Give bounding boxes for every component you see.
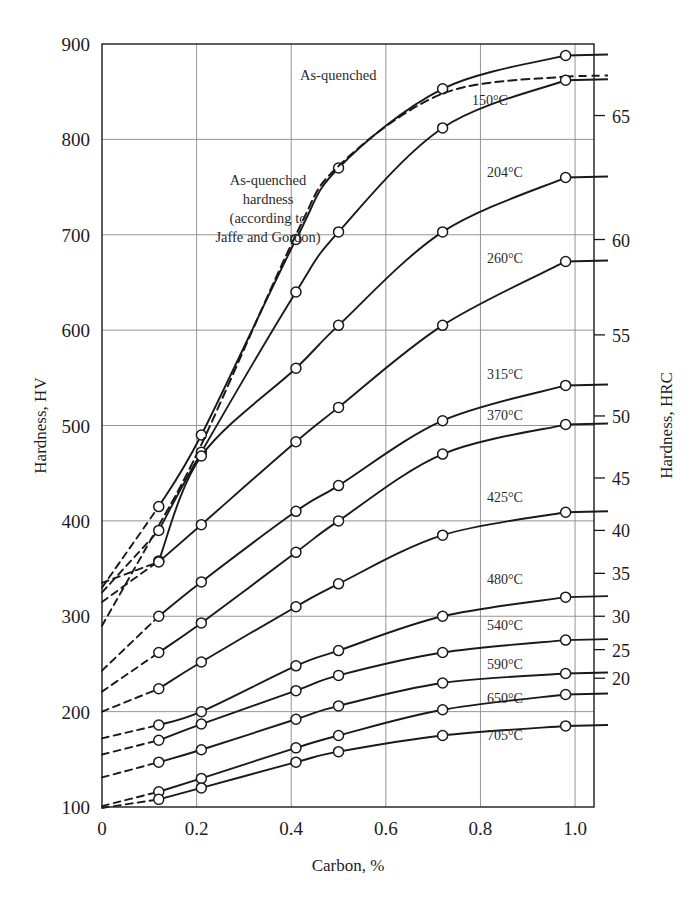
curve-tail (566, 639, 608, 640)
data-point-marker (561, 721, 571, 731)
curve-extrapolation-590-c (102, 762, 159, 777)
curve-tail (566, 54, 608, 55)
hardness-vs-carbon-chart: 10020030040050060070080090000.20.40.60.8… (0, 0, 692, 897)
y-axis-tick-label: 600 (62, 320, 91, 341)
data-point-marker (291, 661, 301, 671)
x-axis-title: Carbon, % (312, 856, 385, 875)
hrc-tick-label: 45 (612, 469, 630, 489)
data-point-marker (334, 579, 344, 589)
curve-tail (566, 596, 608, 597)
hrc-tick-label: 20 (612, 669, 630, 689)
curve-150-c (159, 80, 566, 530)
data-point-marker (291, 506, 301, 516)
curve-extrapolation-315-c (102, 616, 159, 670)
data-point-marker (196, 451, 206, 461)
hrc-tick-label: 50 (612, 407, 630, 427)
curve-tail (566, 672, 608, 673)
data-point-marker (291, 743, 301, 753)
data-point-marker (438, 123, 448, 133)
x-axis-tick-label: 0 (97, 818, 107, 839)
data-point-marker (334, 730, 344, 740)
hrc-tick-label: 30 (612, 607, 630, 627)
data-point-marker (291, 287, 301, 297)
data-point-marker (154, 502, 164, 512)
data-point-marker (561, 420, 571, 430)
curve-tail (566, 75, 608, 76)
data-point-marker (196, 657, 206, 667)
data-point-marker (438, 730, 448, 740)
curve-label-204c: 204°C (487, 165, 523, 180)
data-point-marker (561, 507, 571, 517)
data-point-marker (291, 714, 301, 724)
data-point-marker (334, 402, 344, 412)
data-point-marker (154, 735, 164, 745)
data-point-marker (154, 794, 164, 804)
curve-tail (566, 384, 608, 385)
data-point-marker (438, 678, 448, 688)
data-point-marker (334, 747, 344, 757)
hrc-tick-label: 35 (612, 564, 630, 584)
data-point-marker (561, 592, 571, 602)
data-point-marker (438, 320, 448, 330)
data-point-marker (561, 635, 571, 645)
hrc-tick-label: 55 (612, 326, 630, 346)
hrc-tick-label: 65 (612, 107, 630, 127)
data-point-marker (291, 602, 301, 612)
y-axis-tick-label: 400 (62, 511, 91, 532)
curve-label-540c: 540°C (487, 618, 523, 633)
y-axis-tick-label: 300 (62, 606, 91, 627)
curve-label-480c: 480°C (487, 572, 523, 587)
y-axis-tick-label: 100 (62, 797, 91, 818)
data-point-marker (154, 557, 164, 567)
data-point-marker (334, 163, 344, 173)
hrc-tick-label: 60 (612, 231, 630, 251)
curve-label-260c: 260°C (487, 251, 523, 266)
data-point-marker (334, 670, 344, 680)
curve-tail (566, 725, 608, 726)
curve-label-590c: 590°C (487, 657, 523, 672)
y-axis-title-right: Hardness, HRC (657, 372, 676, 479)
curves-group (102, 50, 608, 808)
curve-extrapolation-204-c (102, 561, 159, 602)
data-point-marker (154, 611, 164, 621)
data-point-marker (561, 256, 571, 266)
data-point-marker (438, 449, 448, 459)
curve-label-650c: 650°C (487, 691, 523, 706)
annotation-jaffe-gordon-line: (according to (230, 210, 307, 227)
hrc-tick-label: 25 (612, 641, 630, 661)
x-axis-tick-label: 0.8 (469, 818, 493, 839)
data-point-marker (334, 227, 344, 237)
data-point-marker (561, 173, 571, 183)
curve-extrapolation-370-c (102, 652, 159, 691)
curve-label-370c: 370°C (487, 408, 523, 423)
data-point-marker (291, 547, 301, 557)
data-point-marker (196, 707, 206, 717)
data-point-marker (334, 481, 344, 491)
x-axis-tick-label: 1.0 (563, 818, 587, 839)
y-axis-tick-label: 900 (62, 34, 91, 55)
data-point-marker (561, 668, 571, 678)
x-axis-tick-label: 0.6 (374, 818, 398, 839)
y-axis-tick-label: 500 (62, 416, 91, 437)
data-point-marker (154, 647, 164, 657)
data-point-marker (561, 50, 571, 60)
y-axis-title-left: Hardness, HV (31, 377, 50, 474)
data-point-marker (196, 719, 206, 729)
data-point-marker (334, 646, 344, 656)
data-point-marker (291, 363, 301, 373)
data-point-marker (438, 227, 448, 237)
data-point-marker (334, 320, 344, 330)
curve-label-315c: 315°C (487, 367, 523, 382)
curve-as-quenched (159, 55, 566, 506)
data-point-marker (291, 757, 301, 767)
data-point-marker (291, 437, 301, 447)
curve-extrapolation-480-c (102, 725, 159, 738)
curve-label-150c: 150°C (472, 93, 508, 108)
curve-extrapolation-425-c (102, 689, 159, 712)
curve-extrapolation-as-quenched (102, 507, 159, 588)
hrc-tick-label: 40 (612, 521, 630, 541)
data-point-marker (196, 577, 206, 587)
curve-label-425c: 425°C (487, 490, 523, 505)
annotation-jaffe-gordon-line: As-quenched (230, 172, 307, 188)
curve-tail (566, 79, 608, 80)
